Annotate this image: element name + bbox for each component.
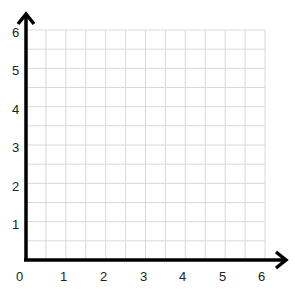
y-tick-1: 1 xyxy=(12,218,19,231)
y-tick-2: 2 xyxy=(12,180,19,193)
x-tick-3: 3 xyxy=(140,270,147,283)
y-tick-6: 6 xyxy=(12,26,19,39)
x-tick-6: 6 xyxy=(258,270,265,283)
x-tick-2: 2 xyxy=(100,270,107,283)
y-tick-4: 4 xyxy=(12,103,19,116)
y-tick-3: 3 xyxy=(12,141,19,154)
x-tick-5: 5 xyxy=(219,270,226,283)
coordinate-grid xyxy=(0,0,295,297)
x-tick-0: 0 xyxy=(16,270,23,283)
y-tick-5: 5 xyxy=(12,64,19,77)
grid-lines xyxy=(26,30,265,260)
x-tick-4: 4 xyxy=(179,270,186,283)
x-tick-1: 1 xyxy=(60,270,67,283)
